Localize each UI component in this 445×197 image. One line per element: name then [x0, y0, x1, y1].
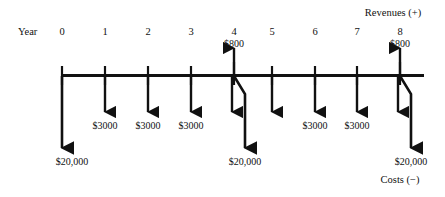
- amount-label-year-7: $3000: [345, 121, 370, 131]
- outflow-arrow-year-4-large: [234, 76, 245, 148]
- cash-flow-svg: [0, 0, 445, 197]
- amount-label-year-0: $20,000: [56, 157, 89, 167]
- amount-label-year-2: $3000: [136, 121, 161, 131]
- amount-label-year-1: $3000: [93, 121, 118, 131]
- cash-flow-diagram: Year 0 1 2 3 4 5 6 7 8 Revenues (+) $800…: [0, 0, 445, 197]
- revenues-note: Revenues (+): [365, 8, 421, 19]
- amount-label-year-6: $3000: [303, 121, 328, 131]
- year-label-3: 3: [188, 27, 193, 38]
- year-label-4: 4: [231, 27, 236, 38]
- inflow-arrows: [234, 48, 400, 76]
- outflow-arrows-large: [62, 76, 411, 148]
- year-label-1: 1: [102, 27, 107, 38]
- amount-label-year-4-inflow: $800: [224, 39, 244, 49]
- year-label-8: 8: [397, 27, 402, 38]
- year-label-0: 0: [59, 27, 64, 38]
- costs-note: Costs (−): [381, 175, 420, 186]
- year-label-2: 2: [145, 27, 150, 38]
- amount-label-year-3: $3000: [179, 121, 204, 131]
- amount-label-year-8-outflow: $20,000: [395, 157, 428, 167]
- amount-label-year-8-inflow: $800: [390, 39, 410, 49]
- year-label-5: 5: [269, 27, 274, 38]
- year-label-7: 7: [354, 27, 359, 38]
- year-label-6: 6: [312, 27, 317, 38]
- amount-label-year-4-outflow: $20,000: [229, 157, 262, 167]
- outflow-arrow-year-8-large: [400, 76, 411, 148]
- axis-title: Year: [18, 27, 37, 38]
- outflow-arrows-small: [105, 76, 398, 112]
